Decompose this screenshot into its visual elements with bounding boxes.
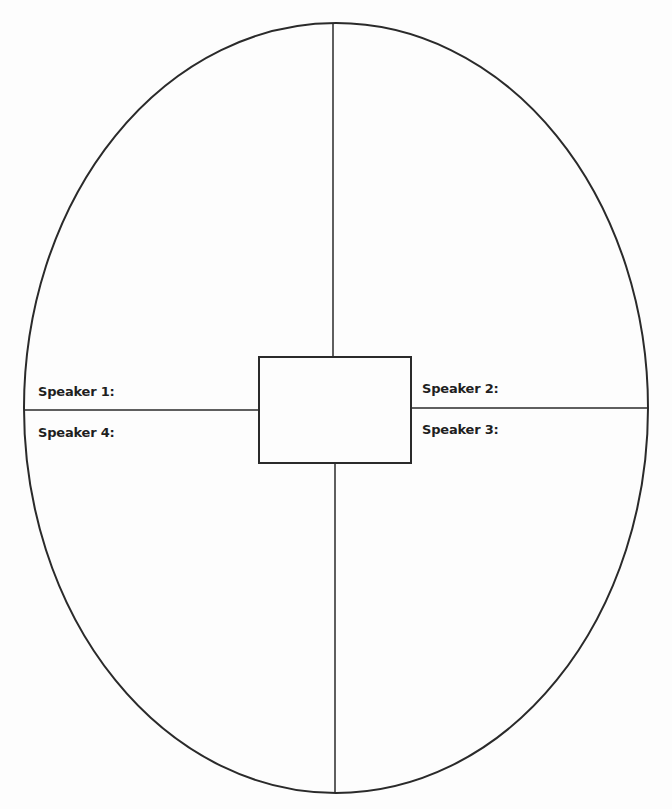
center-topic-box[interactable] (258, 356, 412, 464)
speaker-1-label: Speaker 1: (38, 384, 115, 399)
speaker-3-label: Speaker 3: (422, 422, 499, 437)
speaker-2-label: Speaker 2: (422, 381, 499, 396)
speaker-4-label: Speaker 4: (38, 425, 115, 440)
